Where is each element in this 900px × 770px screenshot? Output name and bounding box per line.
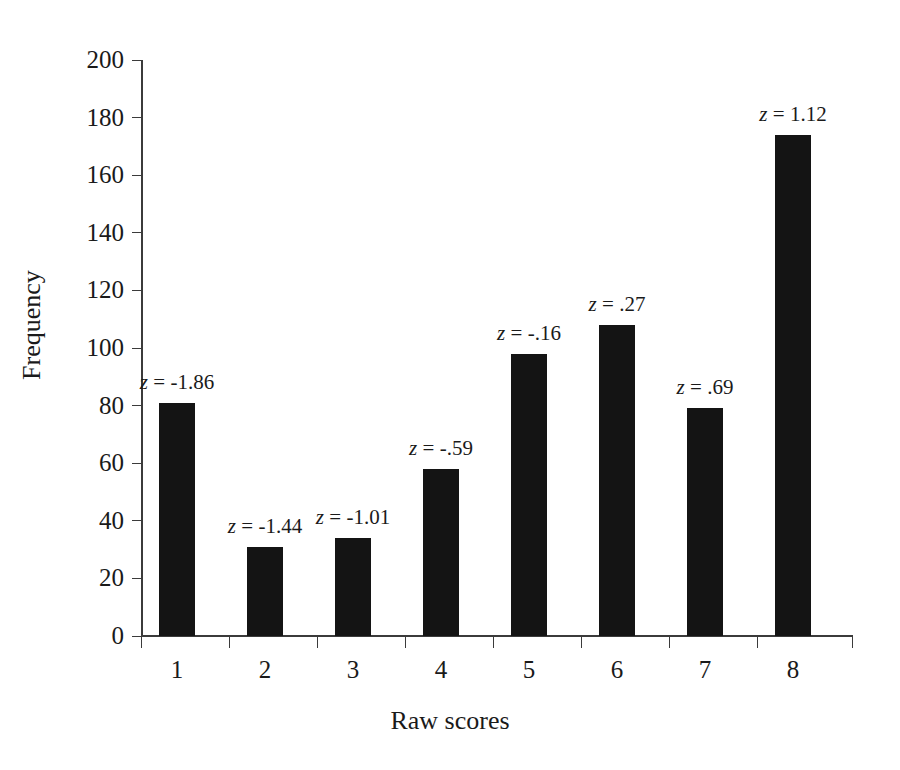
- z-value-text: = -1.86: [148, 370, 214, 394]
- x-tick-mark: [141, 637, 142, 648]
- y-tick-label: 160: [54, 162, 124, 187]
- y-tick-mark: [132, 232, 142, 233]
- bar: [423, 469, 459, 636]
- y-tick-mark: [132, 60, 142, 61]
- z-value-text: = .27: [597, 292, 646, 316]
- y-tick-label: 60: [54, 450, 124, 475]
- y-tick-label: 20: [54, 565, 124, 590]
- z-score-label: z = -1.86: [97, 371, 257, 393]
- x-tick-label: 2: [225, 655, 305, 685]
- x-tick-mark: [493, 637, 494, 648]
- z-symbol: z: [316, 505, 324, 529]
- x-tick-mark: [581, 637, 582, 648]
- z-symbol: z: [759, 102, 767, 126]
- y-tick-label-wrap: 200: [48, 47, 124, 72]
- y-tick-label: 0: [54, 623, 124, 648]
- y-tick-mark: [132, 520, 142, 521]
- x-tick-mark: [405, 637, 406, 648]
- z-value-text: = -.16: [505, 321, 561, 345]
- y-tick-mark: [132, 405, 142, 406]
- bar: [247, 547, 283, 636]
- x-tick-mark: [757, 637, 758, 648]
- z-value-text: = 1.12: [768, 102, 827, 126]
- z-value-text: = .69: [685, 375, 734, 399]
- z-value-text: = -.59: [417, 436, 473, 460]
- z-score-label: z = .69: [625, 376, 785, 398]
- y-tick-mark: [132, 578, 142, 579]
- y-tick-mark: [132, 463, 142, 464]
- y-tick-label-wrap: 100: [48, 335, 124, 360]
- z-score-label: z = .27: [537, 293, 697, 315]
- y-tick-label: 80: [54, 393, 124, 418]
- y-tick-label-wrap: 140: [48, 220, 124, 245]
- x-axis-title: Raw scores: [0, 706, 900, 736]
- y-tick-label-wrap: 20: [48, 565, 124, 590]
- y-tick-label-wrap: 40: [48, 508, 124, 533]
- y-tick-label: 40: [54, 508, 124, 533]
- z-score-label: z = 1.12: [713, 103, 873, 125]
- z-score-label: z = -.59: [361, 437, 521, 459]
- x-tick-label: 7: [665, 655, 745, 685]
- z-symbol: z: [589, 292, 597, 316]
- y-tick-label-wrap: 60: [48, 450, 124, 475]
- x-tick-mark: [669, 637, 670, 648]
- bar: [599, 325, 635, 636]
- z-symbol: z: [140, 370, 148, 394]
- y-tick-label-wrap: 180: [48, 105, 124, 130]
- y-tick-mark: [132, 348, 142, 349]
- z-symbol: z: [228, 514, 236, 538]
- y-tick-label-wrap: 160: [48, 162, 124, 187]
- y-tick-label: 100: [54, 335, 124, 360]
- y-tick-label: 140: [54, 220, 124, 245]
- z-score-label: z = -.16: [449, 322, 609, 344]
- y-tick-label-wrap: 120: [48, 277, 124, 302]
- frequency-distribution-chart: 020406080100120140160180200 12345678 z =…: [0, 0, 900, 770]
- z-score-label: z = -1.01: [273, 506, 433, 528]
- z-symbol: z: [677, 375, 685, 399]
- y-tick-label-wrap: 80: [48, 393, 124, 418]
- x-tick-label: 3: [313, 655, 393, 685]
- x-tick-mark: [317, 637, 318, 648]
- y-axis-line: [141, 60, 143, 637]
- y-tick-mark: [132, 117, 142, 118]
- y-tick-label: 200: [54, 47, 124, 72]
- x-tick-mark: [229, 637, 230, 648]
- y-tick-label: 120: [54, 277, 124, 302]
- bar: [687, 408, 723, 636]
- bar: [335, 538, 371, 636]
- y-tick-mark: [132, 290, 142, 291]
- x-tick-mark: [852, 637, 853, 648]
- y-tick-label-wrap: 0: [48, 623, 124, 648]
- x-tick-label: 5: [489, 655, 569, 685]
- x-tick-label: 1: [137, 655, 217, 685]
- y-axis-title: Frequency: [17, 225, 47, 425]
- y-tick-label: 180: [54, 105, 124, 130]
- x-tick-label: 4: [401, 655, 481, 685]
- x-tick-label: 8: [753, 655, 833, 685]
- y-tick-mark: [132, 175, 142, 176]
- z-value-text: = -1.01: [324, 505, 390, 529]
- x-tick-label: 6: [577, 655, 657, 685]
- bar: [511, 354, 547, 636]
